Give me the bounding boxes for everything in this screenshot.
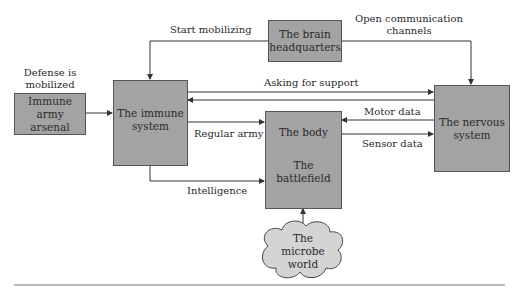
start-mobilizing-label: Start mobilizing	[170, 24, 252, 36]
node-label: headquarters	[269, 41, 341, 54]
nervous-system-box: The nervous system	[434, 85, 510, 172]
node-label: arsenal	[30, 121, 69, 134]
regular-army-label: Regular army	[194, 128, 263, 140]
brain-headquarters-box: The brain headquarters	[268, 20, 342, 62]
node-label: world	[273, 258, 333, 271]
node-label: The nervous	[439, 116, 505, 129]
sensor-data-label: Sensor data	[362, 138, 423, 150]
node-label: system	[453, 129, 490, 142]
open-communication-label: Open communication channels	[350, 13, 468, 37]
node-label: The immune	[117, 107, 183, 120]
node-label: The battlefield	[266, 159, 341, 185]
edge-label: Defense is	[18, 67, 82, 79]
node-label: microbe	[273, 245, 333, 258]
intelligence-label: Intelligence	[187, 185, 247, 197]
node-label: The brain	[279, 28, 330, 41]
body-battlefield-box: The body The battlefield	[265, 111, 342, 209]
motor-data-label: Motor data	[364, 106, 421, 118]
immune-army-arsenal-box: Immune army arsenal	[14, 93, 86, 135]
defense-mobilized-label: Defense is mobilized	[18, 67, 82, 91]
node-label: The	[273, 232, 333, 245]
edge-label: mobilized	[18, 79, 82, 91]
node-label: The body	[279, 126, 328, 139]
edge-label: Open communication	[350, 13, 468, 25]
edge-label: channels	[350, 25, 468, 37]
asking-for-support-label: Asking for support	[264, 77, 359, 89]
immune-system-box: The immune system	[113, 80, 188, 166]
node-label: Immune army	[15, 95, 85, 121]
microbe-world-label: The microbe world	[273, 232, 333, 271]
node-label: system	[132, 120, 169, 133]
